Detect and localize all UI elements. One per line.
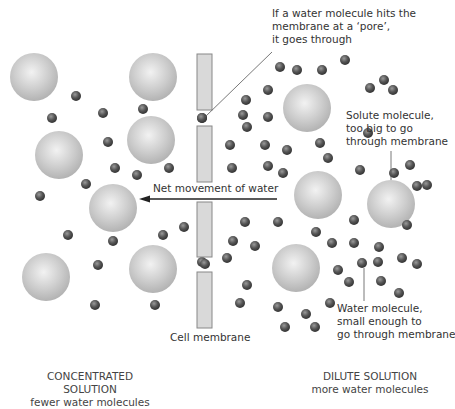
water-molecule	[263, 112, 273, 122]
water-molecule	[310, 322, 320, 332]
water-molecule	[238, 110, 248, 120]
water-molecule	[240, 217, 250, 227]
concentrated-solution-title: CONCENTRATED SOLUTION	[20, 370, 160, 396]
water-molecule	[292, 65, 302, 75]
pore-leader-line	[205, 52, 272, 117]
water-molecule	[63, 230, 73, 240]
net-movement-arrow	[139, 196, 277, 203]
water-molecule	[397, 253, 407, 263]
water-molecule	[340, 55, 350, 65]
water-molecule	[402, 220, 412, 230]
solute-molecule	[89, 184, 137, 232]
water-molecule	[90, 300, 100, 310]
water-molecule	[388, 85, 398, 95]
solute-molecule	[283, 84, 331, 132]
water-molecule	[376, 276, 386, 286]
water-molecule	[263, 161, 273, 171]
solute-molecule	[22, 253, 70, 301]
water-molecule	[278, 168, 288, 178]
water-molecule	[273, 217, 283, 227]
water-molecule	[150, 300, 160, 310]
pore-annotation-line1: If a water molecule hits the	[272, 7, 416, 20]
solute-annotation-line1: Solute molecule,	[346, 109, 448, 122]
water-molecule	[379, 75, 389, 85]
water-molecule	[394, 288, 404, 298]
water-annotation-line1: Water molecule,	[337, 302, 455, 315]
water-molecule	[164, 163, 174, 173]
water-molecule	[225, 140, 235, 150]
water-molecule	[327, 238, 337, 248]
water-molecule	[344, 277, 354, 287]
water-molecule	[93, 260, 103, 270]
water-molecule	[260, 140, 270, 150]
water-molecule	[349, 215, 359, 225]
water-molecule	[47, 113, 57, 123]
water-molecule	[235, 298, 245, 308]
solute-molecule	[129, 245, 177, 293]
water-molecule	[311, 227, 321, 237]
water-molecule	[227, 163, 237, 173]
solute-molecule	[35, 131, 83, 179]
dilute-solution-title: DILUTE SOLUTION	[300, 370, 440, 383]
water-molecule	[373, 257, 383, 267]
pore-annotation-line2: membrane at a ‘pore’,	[272, 20, 416, 33]
water-molecule	[301, 309, 311, 319]
solute-molecule	[294, 171, 342, 219]
water-molecule	[355, 165, 365, 175]
water-molecule	[317, 65, 327, 75]
solute-molecule	[10, 53, 58, 101]
water-molecule	[35, 191, 45, 201]
cell-membrane-label: Cell membrane	[170, 331, 250, 344]
water-annotation-line3: go through membrane	[337, 328, 455, 341]
water-molecule	[357, 258, 367, 268]
water-molecule	[98, 108, 108, 118]
dilute-solution-caption: DILUTE SOLUTION more water molecules	[300, 370, 440, 396]
water-molecule	[241, 95, 251, 105]
water-molecule	[250, 241, 260, 251]
water-molecule	[103, 137, 113, 147]
water-molecule	[228, 236, 238, 246]
solute-molecule	[129, 53, 177, 101]
water-molecule	[349, 238, 359, 248]
water-molecule	[242, 122, 252, 132]
pore-annotation-line3: it goes through	[272, 33, 416, 46]
water-molecule	[179, 222, 189, 232]
water-molecule	[412, 259, 422, 269]
water-molecule	[325, 298, 335, 308]
water-molecule	[222, 253, 232, 263]
water-molecule	[110, 163, 120, 173]
solute-molecule	[272, 244, 320, 292]
water-molecule	[242, 280, 252, 290]
water-molecule	[405, 160, 415, 170]
water-molecule	[138, 104, 148, 114]
water-molecule	[389, 168, 399, 178]
water-molecule	[365, 83, 375, 93]
pore-annotation: If a water molecule hits the membrane at…	[272, 7, 416, 46]
water-molecule	[275, 62, 285, 72]
water-annotation-line2: small enough to	[337, 315, 455, 328]
solute-annotation-line2: too big to go	[346, 122, 448, 135]
water-molecule	[315, 138, 325, 148]
water-molecule	[422, 180, 432, 190]
water-molecule	[81, 179, 91, 189]
dilute-solution-subtitle: more water molecules	[300, 383, 440, 396]
water-molecule	[263, 85, 273, 95]
water-molecule	[412, 181, 422, 191]
water-molecule	[323, 153, 333, 163]
water-molecule	[71, 91, 81, 101]
concentrated-solution-subtitle: fewer water molecules	[20, 396, 160, 409]
water-molecule	[374, 242, 384, 252]
water-molecule	[158, 230, 168, 240]
water-annotation: Water molecule, small enough to go throu…	[337, 302, 455, 341]
water-molecule	[108, 236, 118, 246]
concentrated-solution-caption: CONCENTRATED SOLUTION fewer water molecu…	[20, 370, 160, 409]
water-molecule	[132, 170, 142, 180]
water-molecule	[282, 145, 292, 155]
net-movement-label: Net movement of water	[153, 182, 278, 195]
solute-annotation-line3: through membrane	[346, 135, 448, 148]
solute-annotation: Solute molecule, too big to go through m…	[346, 109, 448, 148]
water-molecule	[280, 322, 290, 332]
water-molecule	[333, 265, 343, 275]
solute-molecule	[127, 116, 175, 164]
water-molecule	[273, 302, 283, 312]
